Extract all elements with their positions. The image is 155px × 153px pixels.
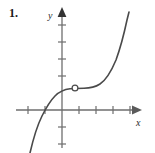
x-axis-arrowhead [132,106,142,115]
function-curve [30,12,129,153]
y-axis-label: y [47,10,53,21]
figure-container: 1. y x [0,0,155,153]
y-axis-arrowhead [58,7,67,17]
graph-plot: y x [0,0,155,153]
open-circle-point [72,85,78,91]
x-axis-label: x [135,117,141,128]
